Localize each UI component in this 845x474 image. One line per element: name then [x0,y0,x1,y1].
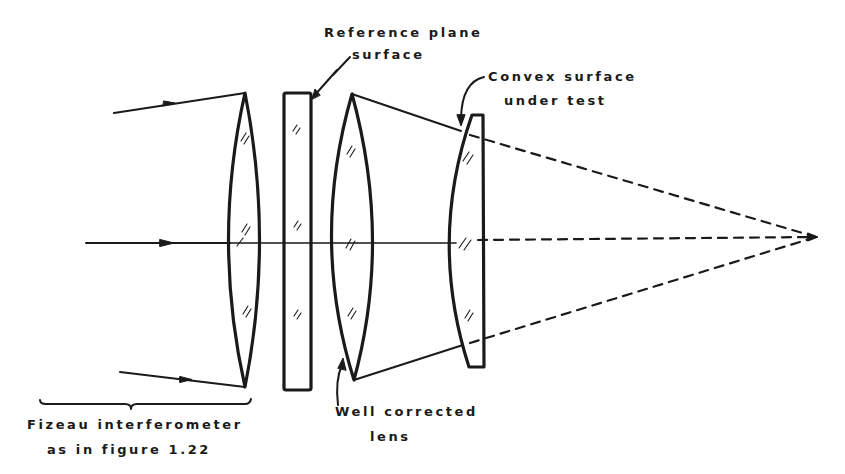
focal-point-icon [808,233,818,241]
fizeau-label-line2: as in figure 1.22 [47,443,211,456]
reference-plane-label-line2: surface [352,48,425,61]
virtual-ray-bottom [470,237,816,343]
well-corrected-lens [331,94,372,380]
fizeau-brace [40,399,251,409]
reference-plane-label: Reference plane [324,26,482,39]
optical-diagram [0,0,845,474]
converging-ray-bottom [354,345,463,380]
arrow-icon [338,358,346,370]
reference-plane-leader [314,57,350,96]
incoming-rays [86,93,245,387]
arrow-icon [457,115,465,126]
well-corrected-label: Well corrected [335,405,478,418]
virtual-ray-top [470,135,816,237]
arrow-icon [160,240,174,247]
arrow-icon [180,377,192,383]
convex-surface-label-line2: under test [504,94,607,107]
virtual-rays [470,135,816,343]
virtual-ray-axis [478,237,816,240]
well-corrected-leader [337,365,342,405]
well-corrected-label-line2: lens [370,430,411,443]
converging-ray-top [352,94,461,131]
convex-surface-label: Convex surface [488,70,637,83]
convex-surface-leader [461,77,484,118]
incoming-ray-top [114,93,245,113]
reference-plate [284,93,311,390]
fizeau-label: Fizeau interferometer [27,418,243,431]
glass-hatch-marks [237,125,473,321]
